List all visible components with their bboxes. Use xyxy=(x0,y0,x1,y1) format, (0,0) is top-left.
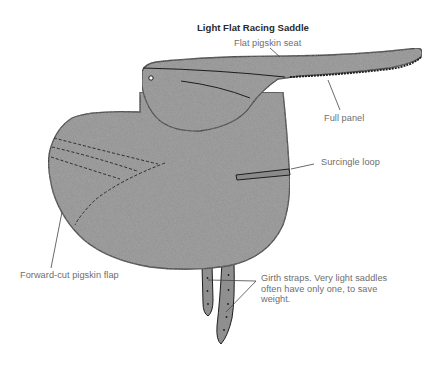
leader-panel xyxy=(328,80,340,110)
label-full-panel: Full panel xyxy=(324,113,364,124)
cantle-rivet xyxy=(149,76,153,80)
label-girth-straps: Girth straps. Very light saddles often h… xyxy=(261,273,391,305)
label-flat-pigskin-seat: Flat pigskin seat xyxy=(234,38,301,49)
girth-line-3: weight. xyxy=(261,294,391,305)
saddle-diagram xyxy=(0,0,445,369)
girth-strap-left xyxy=(202,264,213,316)
label-forward-cut-flap: Forward-cut pigskin flap xyxy=(20,270,119,281)
girth-strap-right xyxy=(217,262,234,344)
girth-line-2: often have only one, to save xyxy=(261,284,391,295)
leader-surcingle xyxy=(291,164,314,169)
leader-flap xyxy=(51,212,62,268)
girth-line-1: Girth straps. Very light saddles xyxy=(261,273,391,284)
figure-title: Light Flat Racing Saddle xyxy=(197,22,309,33)
girth-straps xyxy=(202,262,234,344)
leader-girth-a xyxy=(208,280,256,281)
label-surcingle-loop: Surcingle loop xyxy=(321,157,380,168)
